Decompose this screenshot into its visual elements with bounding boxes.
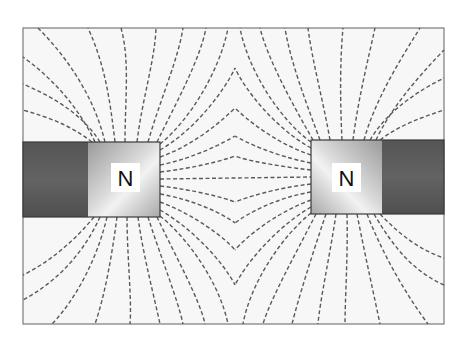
left-magnet: N	[23, 142, 160, 217]
right-pole-label: N	[339, 166, 355, 191]
right-magnet: N	[311, 140, 444, 214]
right-magnet-body	[382, 140, 444, 214]
left-magnet-body	[23, 142, 88, 217]
magnetic-field-diagram: N N	[0, 0, 472, 345]
left-pole-label: N	[118, 166, 134, 191]
